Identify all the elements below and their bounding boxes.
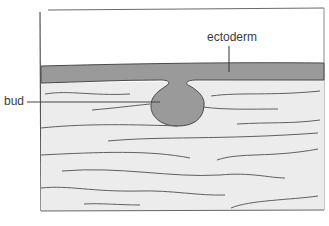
diagram-canvas	[0, 0, 329, 226]
ectoderm-label: ectoderm	[207, 31, 257, 43]
bud-label: bud	[4, 95, 24, 107]
tooth-bud-diagram: ectoderm bud	[0, 0, 329, 226]
